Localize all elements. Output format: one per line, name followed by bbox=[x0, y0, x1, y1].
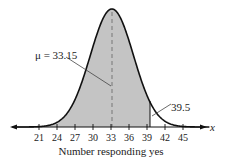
x-axis-variable: x bbox=[209, 121, 215, 133]
normal-distribution-chart: 212427303336394245 x μ = 33.15 39.5 Numb… bbox=[0, 0, 230, 164]
x-axis-left-arrow-icon bbox=[10, 125, 17, 130]
x-tick-label: 27 bbox=[70, 132, 80, 143]
x-axis-right-arrow-icon bbox=[200, 125, 207, 130]
shaded-area bbox=[45, 9, 150, 127]
x-tick-label: 24 bbox=[52, 132, 62, 143]
x-tick-label: 42 bbox=[160, 132, 170, 143]
x-tick-label: 36 bbox=[124, 132, 134, 143]
x-tick-label: 21 bbox=[34, 132, 44, 143]
x-tick-label: 39 bbox=[142, 132, 152, 143]
x-tick-label: 45 bbox=[178, 132, 188, 143]
mean-label: μ = 33.15 bbox=[35, 49, 78, 61]
x-axis-title: Number responding yes bbox=[58, 145, 163, 157]
x-tick-label: 30 bbox=[88, 132, 98, 143]
bound-label: 39.5 bbox=[171, 101, 191, 113]
x-tick-label: 33 bbox=[106, 132, 116, 143]
x-axis-ticks: 212427303336394245 bbox=[34, 124, 188, 143]
